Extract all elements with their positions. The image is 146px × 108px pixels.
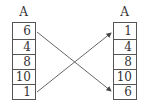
arrow-up-icon [37,33,111,92]
arrow-down-icon [37,32,111,91]
swap-arrows [0,0,146,108]
